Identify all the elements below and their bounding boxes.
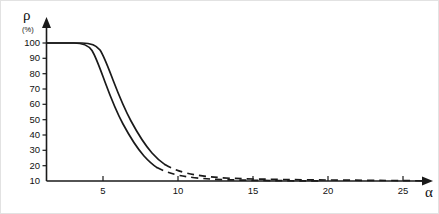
y-tick-label-50: 50 — [29, 114, 40, 125]
x-tick-label-20: 20 — [323, 185, 334, 196]
x-tick-label-10: 10 — [173, 185, 184, 196]
lower-curve-solid — [47, 43, 157, 168]
y-tick-label-30: 30 — [29, 144, 40, 155]
y-tick-label-70: 70 — [29, 83, 40, 94]
x-tick-label-15: 15 — [248, 185, 259, 196]
chart-figure: 100 90 80 70 60 50 40 30 20 10 5 10 15 2… — [0, 0, 439, 214]
y-axis-title: ρ — [23, 7, 31, 23]
y-tick-label-10: 10 — [29, 175, 40, 186]
y-tick-label-40: 40 — [29, 129, 40, 140]
y-axis-arrow-icon — [42, 17, 51, 28]
upper-curve-solid — [47, 43, 165, 165]
x-tick-label-5: 5 — [100, 185, 105, 196]
y-axis-unit-label: (%) — [22, 25, 34, 34]
y-tick-label-90: 90 — [29, 52, 40, 63]
x-tick-label-25: 25 — [398, 185, 409, 196]
chart-plot-area: 100 90 80 70 60 50 40 30 20 10 5 10 15 2… — [1, 1, 439, 214]
y-tick-label-20: 20 — [29, 160, 40, 171]
y-tick-label-100: 100 — [24, 37, 40, 48]
y-tick-label-80: 80 — [29, 68, 40, 79]
x-axis-title: α — [425, 184, 433, 200]
y-tick-label-60: 60 — [29, 98, 40, 109]
